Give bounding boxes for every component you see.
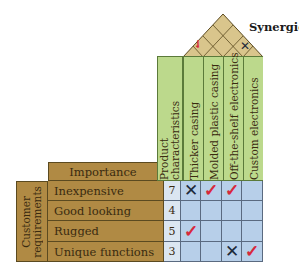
column-header-custom-electronics: Custom electronics [243,56,263,181]
matrix-cell [201,201,222,221]
cross-icon: ✕ [225,243,239,260]
check-icon: ✓ [204,182,218,199]
matrix-cell [181,242,202,262]
column-header-molded-plastic-casing: Molded plastic casing [203,56,223,181]
synergy-cross-icon: ✕ [240,39,250,53]
requirement-label: Inexpensive [48,181,164,201]
requirement-row: Rugged 5 ✓ [48,221,263,242]
check-icon: ✓ [225,182,239,199]
check-icon: ✓ [245,243,259,260]
importance-value: 7 [164,181,181,201]
matrix-cell [242,201,263,221]
requirements-header-line2: requirements [31,186,43,258]
synergies-label: Synergies [249,20,299,34]
requirement-label: Good looking [48,201,164,221]
column-label: Custom electronics [248,77,260,180]
product-characteristics-header: Product characteristics [157,56,183,181]
column-label: Off-the-shelf electronics [228,52,240,180]
importance-header: Importance [48,162,157,181]
requirement-label: Unique functions [48,242,164,262]
matrix-cell [201,242,222,262]
synergy-roof: ✓ ✕ [180,10,268,58]
importance-header-label: Importance [69,165,136,179]
requirement-row: Unique functions 3 ✕ ✓ [48,242,263,262]
requirement-row: Inexpensive 7 ✕ ✓ ✓ [48,181,263,201]
importance-value: 3 [164,242,181,262]
check-icon: ✓ [184,223,198,240]
matrix-cell [242,181,263,201]
column-header-off-the-shelf-electronics: Off-the-shelf electronics [223,56,243,181]
requirement-label: Rugged [48,221,164,242]
matrix-cell [201,221,222,242]
product-header-line2: characteristics [169,101,181,180]
matrix-cell [242,221,263,242]
matrix-cell [181,201,202,221]
customer-requirements-header: Customer requirements [16,181,48,262]
column-label: Molded plastic casing [208,64,220,180]
matrix-cell [222,201,243,221]
requirement-row: Good looking 4 [48,201,263,221]
matrix-cell [222,221,243,242]
column-label: Thicker casing [188,102,200,180]
importance-value: 4 [164,201,181,221]
column-header-thicker-casing: Thicker casing [183,56,203,181]
cross-icon: ✕ [184,182,198,199]
importance-value: 5 [164,221,181,242]
